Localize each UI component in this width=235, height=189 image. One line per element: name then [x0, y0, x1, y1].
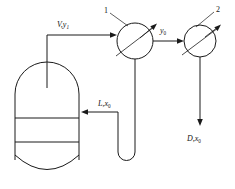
- stage-2-unit: [182, 25, 221, 58]
- vapor-feed-arrowhead: [110, 32, 117, 38]
- interstage-vapor-stream: [153, 38, 184, 44]
- interstage-vapor-label-sub: 0: [164, 30, 167, 36]
- reflux-label-main: L,x: [97, 99, 108, 108]
- distillate-label: D,x0: [186, 134, 201, 144]
- vapor-feed-pipe: [47, 35, 112, 88]
- reflux-label: L,x0: [97, 99, 111, 109]
- reflux-u-pipe: [86, 86, 135, 161]
- vapor-feed-label-sub: 1: [66, 24, 69, 30]
- reflux-arrowhead: [81, 109, 88, 115]
- distillate-label-sub: 0: [198, 138, 201, 144]
- stage-1-callout-leader: [110, 13, 128, 26]
- interstage-vapor-label: y0: [159, 26, 167, 36]
- stage-1-unit: [116, 23, 157, 86]
- vapor-feed-label-main: V,y: [57, 20, 67, 29]
- stage-1-number-label: 1: [104, 6, 108, 15]
- distillate-arrowhead: [197, 119, 203, 126]
- interstage-arrowhead: [177, 38, 184, 44]
- distillate-stream: [197, 57, 203, 126]
- process-flow-diagram: V,y1 y0 L,x0 D,x0 1 2: [0, 0, 235, 189]
- reflux-label-sub: 0: [108, 103, 111, 109]
- stage-2-callout-leader: [196, 12, 214, 27]
- vapor-feed-stream: [47, 32, 117, 88]
- stage-2-number-label: 2: [216, 5, 220, 14]
- distillate-label-main: D,x: [186, 134, 199, 143]
- reflux-stream: [81, 86, 135, 161]
- vapor-feed-label: V,y1: [57, 20, 69, 30]
- column-bottom-arc: [15, 155, 79, 170]
- flow-diagram-canvas: V,y1 y0 L,x0 D,x0 1 2: [0, 0, 235, 189]
